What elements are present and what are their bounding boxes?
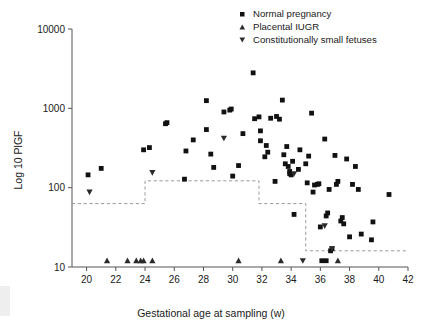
data-point-square: [241, 131, 246, 136]
y-tick-label-10000: 10000: [37, 24, 65, 35]
data-point-square: [99, 166, 104, 171]
y-tick-label-10: 10: [54, 262, 66, 273]
data-point-square: [333, 153, 338, 158]
x-tick-label-24: 24: [139, 274, 151, 285]
data-point-square: [211, 165, 216, 170]
legend: Normal pregnancy Placental IUGR Constitu…: [240, 8, 377, 45]
data-point-triangle-down: [300, 258, 306, 264]
x-tick-label-40: 40: [373, 274, 385, 285]
legend-label-placental-iugr: Placental IUGR: [253, 21, 319, 32]
data-point-square: [359, 232, 364, 237]
data-point-square: [316, 181, 321, 186]
y-axis-title: Log 10 PlGF: [12, 131, 24, 190]
edge-artifact: [0, 286, 10, 316]
data-point-square: [292, 212, 297, 217]
data-point-square: [286, 164, 291, 169]
x-tick-label-26: 26: [169, 274, 181, 285]
x-tick-label-30: 30: [227, 274, 239, 285]
y-tick-group: [68, 29, 72, 267]
data-point-square: [353, 164, 358, 169]
data-point-triangle-up: [149, 258, 155, 264]
triangle-up-marker-icon: [240, 25, 246, 30]
y-tick-label-group: 10100100010000: [37, 24, 65, 273]
y-tick-label-100: 100: [48, 182, 65, 193]
data-point-square: [280, 98, 285, 103]
x-tick-label-32: 32: [256, 274, 268, 285]
data-point-square: [319, 258, 324, 263]
data-point-square: [86, 172, 91, 177]
data-point-square: [273, 179, 278, 184]
x-tick-label-36: 36: [315, 274, 327, 285]
data-point-square: [311, 190, 316, 195]
data-point-square: [258, 128, 263, 133]
data-point-triangle-up: [235, 258, 241, 264]
data-point-square: [387, 192, 392, 197]
data-point-triangle-up: [104, 258, 110, 264]
legend-label-constitutionally-small-fetuses: Constitutionally small fetuses: [253, 34, 377, 45]
data-point-square: [324, 258, 329, 263]
data-point-square: [257, 114, 262, 119]
data-point-square: [356, 187, 361, 192]
data-point-triangle-up: [278, 258, 284, 264]
data-point-square: [262, 154, 267, 159]
legend-item-constitutionally-small-fetuses[interactable]: Constitutionally small fetuses: [240, 34, 377, 45]
data-point-square: [281, 152, 286, 157]
data-point-square: [350, 182, 355, 187]
data-point-square: [147, 145, 152, 150]
data-point-square: [204, 98, 209, 103]
data-point-square: [322, 137, 327, 142]
data-point-square: [251, 70, 256, 75]
data-point-square: [327, 187, 332, 192]
data-point-square: [369, 237, 374, 242]
data-point-triangle-down: [149, 170, 155, 176]
y-tick-label-1000: 1000: [43, 103, 66, 114]
data-point-square: [341, 221, 346, 226]
x-tick-label-28: 28: [198, 274, 210, 285]
data-point-triangle-down: [221, 136, 227, 142]
data-point-square: [297, 147, 302, 152]
legend-item-normal-pregnancy[interactable]: Normal pregnancy: [240, 8, 332, 19]
data-point-square: [371, 220, 376, 225]
chart-figure: 10100100010000 202224262830323436384042 …: [0, 0, 422, 323]
data-point-square: [309, 111, 314, 116]
x-tick-label-22: 22: [110, 274, 122, 285]
data-point-square: [184, 149, 189, 154]
x-tick-label-34: 34: [286, 274, 298, 285]
x-tick-label-38: 38: [344, 274, 356, 285]
data-point-square: [182, 177, 187, 182]
scatter-plot-svg: 10100100010000 202224262830323436384042 …: [0, 0, 422, 323]
data-point-square: [296, 167, 301, 172]
x-tick-label-42: 42: [402, 274, 414, 285]
legend-label-normal-pregnancy: Normal pregnancy: [253, 8, 332, 19]
data-point-square: [318, 225, 323, 230]
data-point-square: [284, 144, 289, 149]
series-normal-pregnancy: [86, 70, 392, 263]
data-point-square: [340, 215, 345, 220]
data-point-square: [191, 138, 196, 143]
axis-group: 10100100010000 202224262830323436384042: [37, 24, 414, 286]
data-point-square: [204, 127, 209, 132]
data-point-square: [277, 117, 282, 122]
data-point-square: [290, 159, 295, 164]
x-axis-title: Gestational age at sampling (w): [137, 307, 285, 319]
data-point-square: [344, 157, 349, 162]
data-point-square: [303, 161, 308, 166]
x-tick-label-group: 202224262830323436384042: [81, 274, 414, 285]
x-tick-label-20: 20: [81, 274, 93, 285]
data-point-square: [305, 180, 310, 185]
data-point-square: [265, 150, 270, 155]
data-point-square: [252, 116, 257, 121]
data-point-square: [141, 147, 146, 152]
data-point-square: [347, 234, 352, 239]
x-tick-group: [87, 267, 408, 271]
data-point-triangle-up: [335, 258, 341, 264]
data-point-square: [306, 154, 311, 159]
triangle-down-marker-icon: [240, 38, 246, 43]
data-point-square: [335, 179, 340, 184]
data-point-square: [208, 152, 213, 157]
data-point-square: [230, 174, 235, 179]
data-point-triangle-down: [86, 190, 92, 196]
data-point-square: [258, 138, 263, 143]
legend-item-placental-iugr[interactable]: Placental IUGR: [240, 21, 320, 32]
data-point-triangle-up: [124, 258, 130, 264]
